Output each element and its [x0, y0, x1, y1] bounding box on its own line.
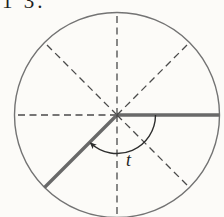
spoke-northwest-dashed: [45, 43, 117, 115]
angle-arc: [91, 115, 156, 153]
circle-angle-figure: t: [0, 0, 224, 217]
figure-svg: [0, 0, 224, 217]
angle-label-t: t: [126, 150, 131, 171]
spoke-northeast-dashed: [117, 43, 189, 115]
